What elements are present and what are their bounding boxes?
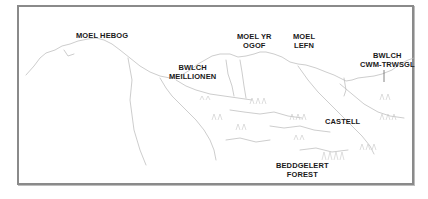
label-bwlch-cwm-trwsgl: BWLCH CWM-TRWSGL [360,51,415,69]
label-line: MOEL [293,32,315,41]
label-line: OGOF [237,41,272,50]
label-line: MOEL YR [237,32,272,41]
label-line: LEFN [293,41,315,50]
label-line: BEDDGELERT [276,161,329,170]
label-line: MEILLIONEN [169,72,216,81]
label-bwlch-meillionen: BWLCH MEILLIONEN [169,63,216,81]
label-line: FOREST [276,170,329,179]
label-line: MOEL HEBOG [76,31,128,40]
label-castell: CASTELL [325,117,360,126]
label-moel-yr-ogof: MOEL YR OGOF [237,32,272,50]
label-moel-lefn: MOEL LEFN [293,32,315,50]
label-line: BWLCH [169,63,216,72]
label-beddgelert-forest: BEDDGELERT FOREST [276,161,329,179]
mountain-sketch [0,0,428,199]
label-line: CASTELL [325,117,360,126]
label-line: BWLCH [360,51,415,60]
label-line: CWM-TRWSGL [360,60,415,69]
label-moel-hebog: MOEL HEBOG [76,31,128,40]
skyline-ridge [26,38,414,81]
